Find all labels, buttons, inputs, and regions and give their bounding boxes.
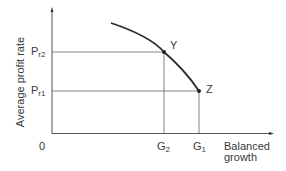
y-tick-pr2-sub: r2 (38, 50, 45, 59)
x-tick-g1-base: G (193, 140, 202, 152)
x-tick-g2-sub: 2 (166, 145, 170, 154)
point-z-marker (197, 89, 201, 93)
y-axis-arrow-icon (51, 7, 54, 12)
point-y-label: Y (170, 39, 177, 51)
x-tick-g1: G1 (193, 140, 206, 156)
origin-label: 0 (39, 140, 45, 152)
y-tick-pr1-sub: r1 (38, 89, 45, 98)
x-tick-g1-sub: 1 (202, 145, 206, 154)
y-tick-pr2: Pr2 (31, 45, 45, 61)
x-axis-arrow-icon (269, 132, 274, 135)
y-tick-pr1: Pr1 (31, 84, 45, 100)
point-y-marker (162, 50, 166, 54)
point-z-label: Z (206, 83, 213, 95)
x-tick-g2: G2 (157, 140, 170, 156)
y-axis-label: Average profit rate (14, 37, 26, 127)
x-axis-label-line2: growth (224, 151, 257, 163)
x-tick-g2-base: G (157, 140, 166, 152)
profit-growth-curve (111, 23, 199, 91)
